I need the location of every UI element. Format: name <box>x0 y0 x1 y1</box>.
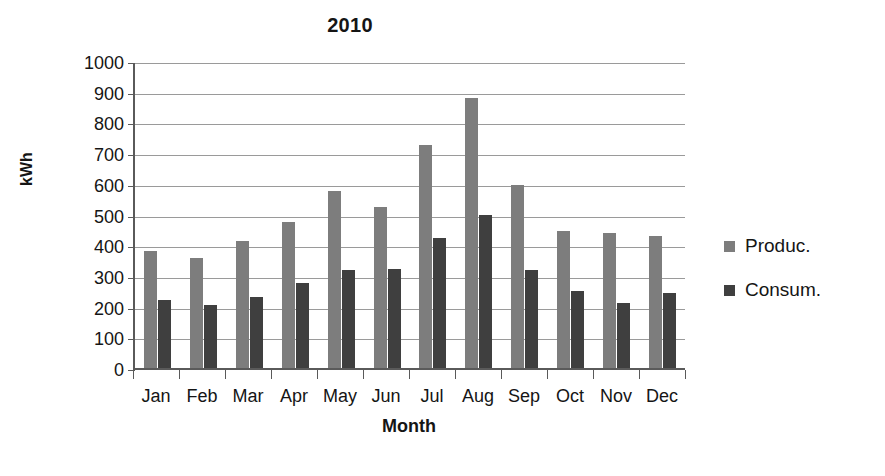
y-axis-tick-label: 1000 <box>44 54 124 72</box>
x-axis-tick-labels: JanFebMarAprMayJunJulAugSepOctNovDec <box>133 384 685 410</box>
chart-title: 2010 <box>0 14 700 37</box>
bar-produc-jun[interactable] <box>374 207 387 368</box>
legend-item[interactable]: Consum. <box>724 268 874 312</box>
x-axis-tick-mark <box>409 370 410 379</box>
bars-layer <box>135 63 685 368</box>
bar-group <box>364 63 410 368</box>
bar-produc-nov[interactable] <box>603 233 616 368</box>
chart-legend: Produc.Consum. <box>724 224 874 312</box>
bar-produc-mar[interactable] <box>236 241 249 368</box>
bar-group <box>181 63 227 368</box>
bar-group <box>410 63 456 368</box>
y-axis-tick-label: 300 <box>44 269 124 287</box>
y-axis-tick-mark <box>128 124 135 125</box>
x-axis-tick-mark <box>363 370 364 379</box>
x-axis-tick-mark <box>639 370 640 379</box>
x-axis-tick-mark <box>685 370 686 379</box>
y-axis-tick-label: 900 <box>44 85 124 103</box>
bar-consum-jun[interactable] <box>388 269 401 368</box>
x-axis-tick-label: Aug <box>455 384 501 410</box>
y-axis-tick-mark <box>128 309 135 310</box>
bar-produc-oct[interactable] <box>557 231 570 368</box>
bar-consum-aug[interactable] <box>479 215 492 369</box>
y-axis-tick-mark <box>128 155 135 156</box>
square-swatch-icon <box>724 285 735 296</box>
y-axis-tick-mark <box>128 186 135 187</box>
bar-consum-jan[interactable] <box>158 300 171 368</box>
bar-group <box>593 63 639 368</box>
y-axis-tick-mark <box>128 339 135 340</box>
bar-group <box>135 63 181 368</box>
bar-consum-apr[interactable] <box>296 283 309 368</box>
y-axis-tick-labels: 10009008007006005004003002001000 <box>44 52 124 370</box>
x-axis-tick-label: Jun <box>363 384 409 410</box>
bar-consum-sep[interactable] <box>525 270 538 368</box>
y-axis-tick-label: 200 <box>44 300 124 318</box>
y-axis-tick-label: 700 <box>44 146 124 164</box>
bar-consum-mar[interactable] <box>250 297 263 368</box>
x-axis-tick-label: Oct <box>547 384 593 410</box>
x-axis-tick-label: Jan <box>133 384 179 410</box>
bar-consum-jul[interactable] <box>433 238 446 368</box>
bar-consum-feb[interactable] <box>204 305 217 368</box>
square-swatch-icon <box>724 241 735 252</box>
bar-consum-nov[interactable] <box>617 303 630 368</box>
y-axis-tick-label: 0 <box>44 361 124 379</box>
bar-produc-apr[interactable] <box>282 222 295 368</box>
x-axis-tick-mark <box>593 370 594 379</box>
y-axis-tick-mark <box>128 63 135 64</box>
bar-group <box>318 63 364 368</box>
bar-group <box>547 63 593 368</box>
bar-consum-oct[interactable] <box>571 291 584 368</box>
x-axis-title: Month <box>133 416 685 437</box>
chart-container: 2010 kWh 1000900800700600500400300200100… <box>0 0 885 476</box>
bar-consum-may[interactable] <box>342 270 355 368</box>
bar-produc-jul[interactable] <box>419 145 432 368</box>
x-axis-tick-mark <box>225 370 226 379</box>
bar-group <box>227 63 273 368</box>
y-axis-tick-mark <box>128 278 135 279</box>
bar-produc-may[interactable] <box>328 191 341 368</box>
y-axis-tick-label: 600 <box>44 177 124 195</box>
y-axis-tick-mark <box>128 217 135 218</box>
x-axis-tick-mark <box>501 370 502 379</box>
x-axis-tick-label: Feb <box>179 384 225 410</box>
bar-produc-jan[interactable] <box>144 251 157 368</box>
x-axis-tick-label: Nov <box>593 384 639 410</box>
bar-produc-dec[interactable] <box>649 236 662 368</box>
x-axis-tick-mark <box>271 370 272 379</box>
legend-label: Produc. <box>745 235 810 257</box>
x-axis-tick-label: Dec <box>639 384 685 410</box>
x-axis-tick-label: Sep <box>501 384 547 410</box>
x-axis-tick-mark <box>317 370 318 379</box>
x-axis-tick-mark <box>455 370 456 379</box>
bar-group <box>272 63 318 368</box>
legend-item[interactable]: Produc. <box>724 224 874 268</box>
bar-consum-dec[interactable] <box>663 293 676 368</box>
bar-group <box>502 63 548 368</box>
x-axis-tick-label: Mar <box>225 384 271 410</box>
x-axis-tick-label: Apr <box>271 384 317 410</box>
y-axis-title: kWh <box>18 152 36 186</box>
bar-group <box>639 63 685 368</box>
x-axis-tick-mark <box>547 370 548 379</box>
bar-produc-feb[interactable] <box>190 258 203 368</box>
x-axis-tick-mark <box>133 370 134 379</box>
y-axis-tick-mark <box>128 94 135 95</box>
y-axis-tick-label: 400 <box>44 238 124 256</box>
y-axis-tick-label: 500 <box>44 208 124 226</box>
bar-produc-sep[interactable] <box>511 185 524 368</box>
bar-produc-aug[interactable] <box>465 98 478 368</box>
y-axis-tick-mark <box>128 247 135 248</box>
y-axis-tick-label: 800 <box>44 115 124 133</box>
y-axis-tick-label: 100 <box>44 330 124 348</box>
x-axis-tick-label: May <box>317 384 363 410</box>
bar-group <box>456 63 502 368</box>
x-axis-tick-label: Jul <box>409 384 455 410</box>
legend-label: Consum. <box>745 279 821 301</box>
plot-area <box>133 63 685 370</box>
x-axis-tick-mark <box>179 370 180 379</box>
x-axis-tick-marks <box>133 370 685 380</box>
